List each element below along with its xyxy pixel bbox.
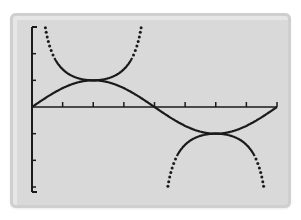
axes — [32, 27, 277, 192]
graph-plot — [0, 0, 301, 220]
cosecant-branch — [44, 26, 143, 80]
cosecant-branch — [166, 134, 265, 188]
